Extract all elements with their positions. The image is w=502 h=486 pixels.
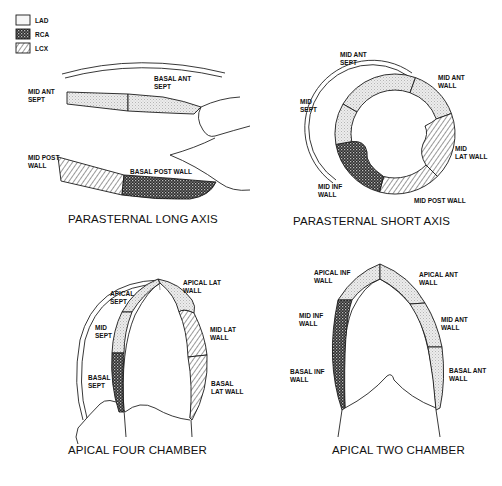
label-plax-mid-ant-sept: MID ANT SEPT [28,88,57,103]
a2c-mid-ant-wall-segment [410,303,442,347]
title-parasternal-long-axis: PARASTERNAL LONG AXIS [68,213,218,225]
label-a4c-mid-lat-wall: MID LAT WALL [210,326,238,341]
label-psax-mid-ant-wall: MID ANT WALL [438,74,467,89]
label-plax-mid-post-wall: MID POST WALL [28,154,61,169]
a4c-basal-lat-wall-segment [188,355,207,420]
a2c-mid-basal-inf-wall-segment [332,300,352,410]
a4c-labels: APICAL SEPT APICAL LAT WALL MID SEPT MID… [88,279,243,395]
title-apical-four-chamber: APICAL FOUR CHAMBER [68,444,207,456]
psax-mid-sept-segment [335,104,357,144]
label-a2c-basal-ant-wall: BASAL ANT WALL [449,367,488,382]
lad-swatch-icon [16,15,30,25]
label-a2c-mid-ant-wall: MID ANT WALL [441,316,470,331]
rca-swatch-icon [16,29,30,39]
label-a2c-basal-inf-wall: BASAL INF WALL [290,368,326,383]
psax-mid-ant-sept-segment [343,74,416,112]
plax-basal-ant-sept-segment [128,94,201,114]
legend-item-lad: LAD [16,15,49,25]
title-parasternal-short-axis: PARASTERNAL SHORT AXIS [293,215,450,227]
a2c-mitral-outline [345,375,436,408]
panel-parasternal-short-axis: MID ANT SEPT MID ANT WALL MID SEPT MID L… [293,51,487,227]
panel-apical-two-chamber: APICAL INF WALL APICAL ANT WALL MID INF … [290,264,488,456]
panel-apical-four-chamber: APICAL SEPT APICAL LAT WALL MID SEPT MID… [68,279,243,456]
label-plax-basal-post-wall: BASAL POST WALL [130,168,192,175]
lcx-swatch-icon [16,43,30,53]
aorta-upper-wall [201,97,240,107]
legend-label-rca: RCA [35,31,49,38]
label-a2c-apical-inf-wall: APICAL INF WALL [314,269,352,284]
label-psax-mid-post-wall: MID POST WALL [414,197,466,204]
a4c-mid-lat-wall-segment [179,310,207,357]
label-a4c-mid-sept: MID SEPT [95,324,112,339]
label-psax-mid-inf-wall: MID INF WALL [318,183,344,198]
label-psax-mid-sept: MID SEPT [300,98,317,113]
a4c-interatrial-septum [124,410,126,437]
a4c-la-outline [125,405,190,420]
label-a2c-apical-ant-wall: APICAL ANT WALL [419,271,460,286]
a2c-la-wall-left [338,410,342,437]
label-psax-mid-lat-wall: MID LAT WALL [455,145,487,160]
legend-label-lad: LAD [35,17,49,24]
a2c-la-wall-right [436,410,440,437]
label-psax-mid-ant-sept: MID ANT SEPT [340,51,369,66]
coronary-territory-diagram: LAD RCA LCX MID ANT SEPT [0,0,502,486]
a2c-basal-ant-wall-segment [428,347,444,410]
label-a4c-basal-sept: BASAL SEPT [88,374,112,389]
plax-mid-post-wall-segment [58,157,124,195]
a2c-labels: APICAL INF WALL APICAL ANT WALL MID INF … [290,269,488,383]
chest-wall-inner [65,68,222,78]
legend: LAD RCA LCX [16,15,49,53]
a4c-ra-wall [76,428,78,444]
legend-item-rca: RCA [16,29,49,39]
label-a4c-apical-lat-wall: APICAL LAT WALL [183,279,223,294]
a4c-la-wall [191,420,192,437]
plax-mid-ant-sept-segment [67,92,128,111]
legend-label-lcx: LCX [35,45,49,52]
a4c-basal-sept-segment [112,353,124,412]
psax-mid-post-wall-segment [380,165,438,194]
label-plax-basal-ant-sept: BASAL ANT SEPT [154,75,193,90]
psax-ring [335,74,455,194]
aortic-valve-outline [198,107,250,136]
label-a4c-basal-lat-wall: BASAL LAT WALL [211,380,243,395]
plax-labels: MID ANT SEPT BASAL ANT SEPT MID POST WAL… [28,75,193,175]
legend-item-lcx: LCX [16,43,49,53]
label-a2c-mid-inf-wall: MID INF WALL [299,312,325,327]
title-apical-two-chamber: APICAL TWO CHAMBER [332,444,465,456]
panel-parasternal-long-axis: MID ANT SEPT BASAL ANT SEPT MID POST WAL… [28,63,250,225]
plax-basal-post-wall-segment [122,175,216,199]
